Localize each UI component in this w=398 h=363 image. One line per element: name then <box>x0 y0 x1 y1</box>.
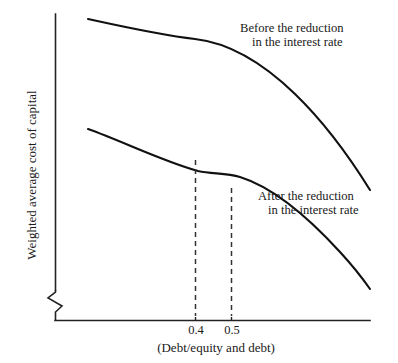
chart-figure: 0.4 0.5 (Debt/equity and debt) Weighted … <box>0 0 398 363</box>
chart-canvas: 0.4 0.5 (Debt/equity and debt) Weighted … <box>0 0 398 363</box>
x-axis-label: (Debt/equity and debt) <box>157 340 275 355</box>
y-axis-break-icon <box>48 290 62 320</box>
after-curve-label-line2: in the interest rate <box>268 203 359 217</box>
x-tick-label-0-5: 0.5 <box>224 323 240 337</box>
y-axis-label: Weighted average cost of capital <box>24 90 39 260</box>
after-curve-label-line1: After the reduction <box>258 189 355 203</box>
x-tick-label-0-4: 0.4 <box>188 323 204 337</box>
before-curve-label-line2: in the interest rate <box>252 35 343 49</box>
before-curve-label-line1: Before the reduction <box>240 21 344 35</box>
